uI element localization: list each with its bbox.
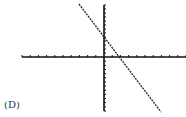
y-axis (104, 5, 106, 111)
plotted-line (79, 4, 161, 112)
panel-label: (D) (4, 99, 20, 111)
line-graph (0, 0, 186, 117)
